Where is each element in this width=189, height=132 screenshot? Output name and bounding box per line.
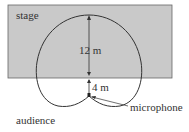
stage-label: stage: [16, 10, 39, 21]
audience-label: audience: [16, 115, 55, 126]
microphone-marker: [88, 93, 91, 97]
arrowhead-4m-top: [87, 79, 91, 83]
microphone-label: microphone: [130, 102, 183, 113]
distance-12m-label: 12 m: [79, 45, 101, 56]
distance-4m-label: 4 m: [92, 82, 109, 93]
